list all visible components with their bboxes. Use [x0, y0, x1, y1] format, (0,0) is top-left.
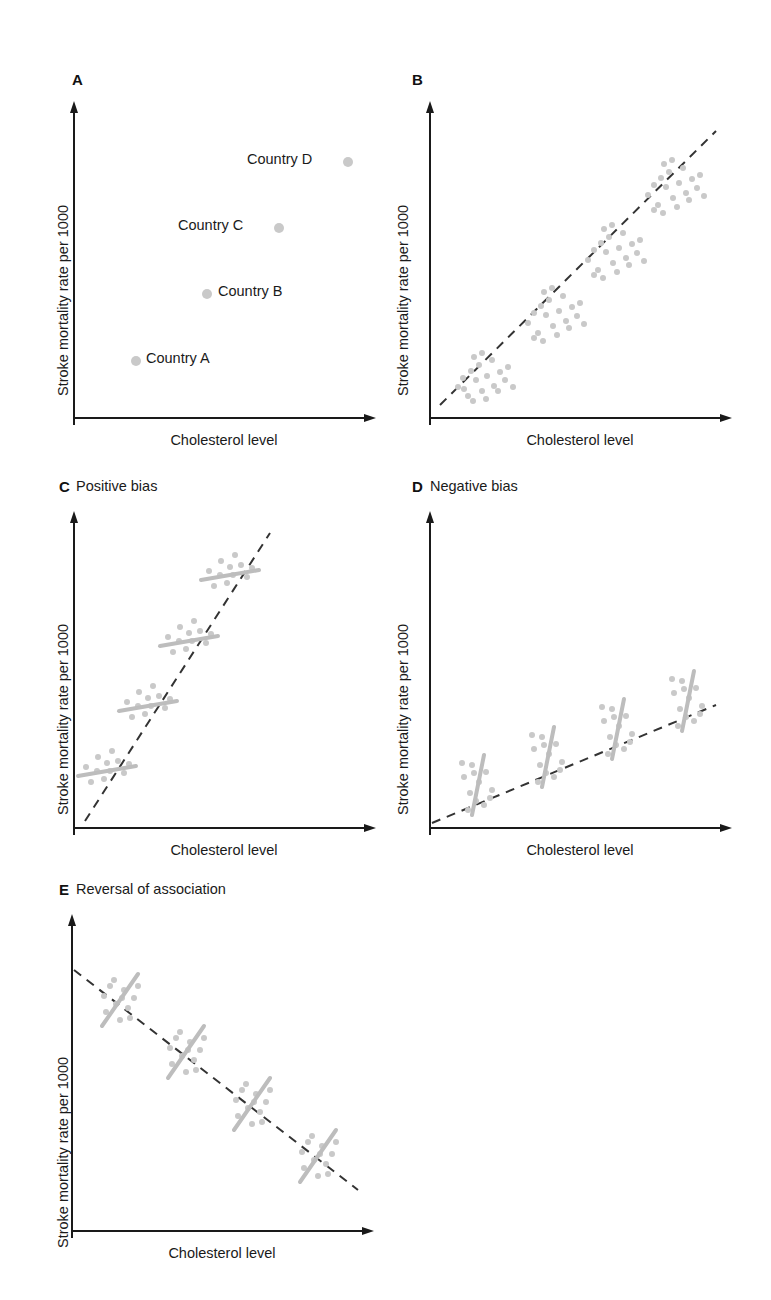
- data-point-country-a: [131, 356, 141, 366]
- data-point-country-b: [202, 289, 212, 299]
- panel-b-points: [455, 157, 707, 404]
- panel-b-xlabel: Cholesterol level: [430, 432, 730, 448]
- panel-a-plot: [60, 95, 390, 435]
- panel-b-axes: [426, 101, 732, 425]
- point-label-country-c: Country C: [178, 217, 243, 233]
- data-point-country-d: [343, 157, 353, 167]
- panel-e-title: Reversal of association: [76, 882, 226, 897]
- panel-c: C Positive bias Stroke mortality rate pe…: [0, 460, 400, 860]
- panel-d-ylabel: Stroke mortality rate per 1000: [395, 624, 411, 815]
- panel-c-points: [83, 552, 255, 785]
- panel-a-axes: [70, 101, 376, 425]
- panel-d: D Negative bias Stroke mortality rate pe…: [356, 460, 771, 860]
- panel-d-plot: [416, 505, 746, 845]
- panel-b: B Stroke mortality rate per 1000: [356, 0, 771, 460]
- panel-c-plot: [60, 505, 390, 845]
- panel-c-letter: C: [59, 479, 70, 494]
- panel-e-plot: [58, 908, 388, 1248]
- panel-a: A Stroke mortality rate per 1000 Country…: [0, 0, 400, 460]
- panel-c-xlabel: Cholesterol level: [74, 842, 374, 858]
- point-label-country-b: Country B: [218, 283, 282, 299]
- panel-d-xlabel: Cholesterol level: [430, 842, 730, 858]
- point-label-country-a: Country A: [146, 350, 210, 366]
- panel-c-group-lines: [78, 570, 259, 776]
- panel-a-xlabel: Cholesterol level: [74, 432, 374, 448]
- data-point-country-c: [274, 223, 284, 233]
- panel-e-axes: [68, 914, 374, 1238]
- panel-c-trend-line: [85, 533, 270, 821]
- panel-e-xlabel: Cholesterol level: [72, 1245, 372, 1261]
- panel-b-letter: B: [412, 72, 423, 87]
- panel-d-group-lines: [472, 671, 694, 815]
- panel-c-title: Positive bias: [76, 479, 157, 494]
- panel-e: E Reversal of association Stroke mortali…: [0, 860, 400, 1300]
- panel-a-points: [131, 157, 353, 366]
- panel-b-plot: [416, 95, 746, 435]
- panel-d-letter: D: [412, 479, 423, 494]
- panel-d-title: Negative bias: [430, 479, 518, 494]
- panel-d-axes: [426, 511, 732, 835]
- panel-b-ylabel: Stroke mortality rate per 1000: [395, 205, 411, 396]
- figure-ecological-fallacy: A Stroke mortality rate per 1000 Country…: [0, 0, 771, 1300]
- panel-d-points: [459, 676, 705, 813]
- point-label-country-d: Country D: [247, 151, 312, 167]
- panel-e-letter: E: [59, 882, 69, 897]
- panel-a-letter: A: [72, 72, 83, 87]
